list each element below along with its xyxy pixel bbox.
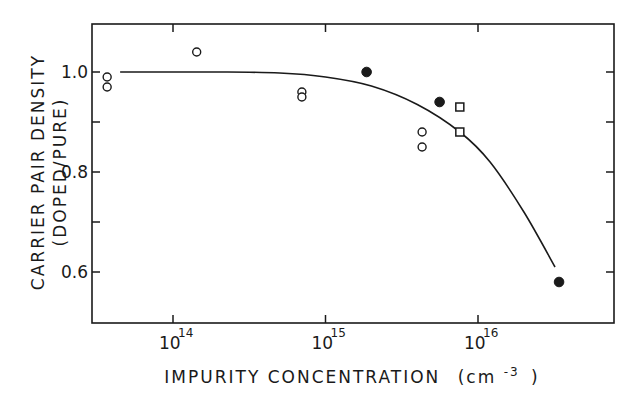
open-circle-marker	[193, 48, 201, 56]
plot-frame-rect	[92, 24, 614, 323]
fit-curve-path	[120, 72, 555, 267]
x-axis-ticks: 101410151016	[159, 24, 498, 353]
y-axis-ticks: 1.00.80.6	[61, 62, 614, 282]
x-axis-title-unit: (cm	[458, 367, 497, 387]
plot-frame	[92, 24, 614, 323]
open-circle-marker	[418, 143, 426, 151]
filled-circle-marker	[435, 97, 445, 107]
fit-curve	[120, 72, 555, 267]
x-axis-title-main: IMPURITY CONCENTRATION	[164, 367, 440, 387]
y-tick-label: 1.0	[61, 62, 88, 82]
open-circle-marker	[103, 73, 111, 81]
x-axis-title-unit-exponent: -3	[504, 365, 520, 379]
filled-circle-marker	[554, 277, 564, 287]
y-tick-label: 0.6	[61, 262, 88, 282]
chart: 1.00.80.6 101410151016 CARRIER PAIR DENS…	[0, 0, 632, 400]
open-circle-marker	[298, 93, 306, 101]
open-square-marker	[456, 103, 464, 111]
open-square-marker	[456, 128, 464, 136]
y-axis-title-line2: (DOPED/PURE)	[50, 98, 70, 247]
x-axis-title-unit-close: )	[531, 367, 540, 387]
y-axis-title: CARRIER PAIR DENSITY (DOPED/PURE)	[28, 54, 70, 290]
open-circle-marker	[418, 128, 426, 136]
svg-text:IMPURITY CONCENTRATION (: IMPURITY CONCENTRATION (cm -3 )	[164, 360, 539, 387]
open-circle-marker	[103, 83, 111, 91]
filled-circle-marker	[362, 67, 372, 77]
x-tick-label-exponent: 15	[331, 326, 346, 340]
x-tick-label-exponent: 16	[483, 326, 498, 340]
x-axis-title: IMPURITY CONCENTRATION (cm -3 )	[164, 360, 539, 387]
y-axis-title-line1: CARRIER PAIR DENSITY	[28, 54, 48, 290]
x-tick-label-exponent: 14	[178, 326, 193, 340]
